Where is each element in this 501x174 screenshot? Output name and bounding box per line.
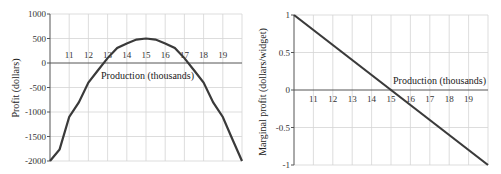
svg-text:18: 18	[199, 50, 209, 60]
svg-text:-0.5: -0.5	[276, 123, 291, 133]
marginal-profit-chart: 1 0.5 0 -0.5 -1 11 12 13 14 15 16 17 18 …	[257, 10, 488, 170]
profit-y-axis-label: Profit (dollars)	[10, 58, 22, 117]
svg-text:17: 17	[425, 94, 435, 104]
svg-text:0: 0	[286, 85, 291, 95]
svg-text:500: 500	[33, 34, 47, 44]
svg-text:15: 15	[387, 94, 397, 104]
svg-text:0.5: 0.5	[279, 48, 291, 58]
marginal-y-tick-labels: 1 0.5 0 -0.5 -1	[276, 10, 291, 170]
svg-text:1000: 1000	[28, 9, 47, 19]
svg-text:19: 19	[464, 94, 474, 104]
marginal-y-axis-label: Marginal profit (dollars/widget)	[257, 28, 269, 156]
svg-text:12: 12	[84, 50, 93, 60]
marginal-x-tick-labels: 11 12 13 14 15 16 17 18 19	[309, 94, 474, 104]
svg-text:-1: -1	[283, 160, 291, 170]
profit-y-tick-labels: 1000 500 0 -500 -1000 -1500 -2000	[25, 9, 47, 166]
profit-x-axis-label: Production (thousands)	[101, 70, 194, 82]
svg-text:15: 15	[142, 50, 152, 60]
svg-text:-1000: -1000	[25, 107, 46, 117]
profit-x-tick-labels: 11 12 13 14 15 16 17 18 19	[65, 50, 228, 60]
svg-text:12: 12	[328, 94, 337, 104]
svg-text:11: 11	[309, 94, 318, 104]
svg-text:14: 14	[122, 50, 132, 60]
svg-text:-500: -500	[30, 83, 47, 93]
svg-text:14: 14	[367, 94, 377, 104]
marginal-x-axis-label: Production (thousands)	[393, 75, 486, 87]
svg-text:-2000: -2000	[25, 156, 46, 166]
svg-text:16: 16	[161, 50, 171, 60]
svg-text:0: 0	[42, 58, 47, 68]
charts-canvas: 1000 500 0 -500 -1000 -1500 -2000 11 12 …	[0, 0, 501, 174]
svg-text:-1500: -1500	[25, 132, 46, 142]
profit-chart: 1000 500 0 -500 -1000 -1500 -2000 11 12 …	[10, 9, 242, 166]
svg-text:19: 19	[218, 50, 228, 60]
profit-gridlines	[50, 14, 242, 161]
svg-text:1: 1	[286, 10, 291, 20]
svg-text:18: 18	[445, 94, 455, 104]
svg-text:11: 11	[65, 50, 74, 60]
svg-text:13: 13	[348, 94, 358, 104]
